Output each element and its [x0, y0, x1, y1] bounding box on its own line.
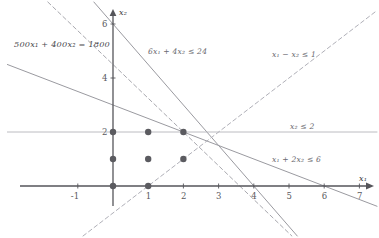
- constraint-label-x1-2x2: x₁ + 2x₂ ≤ 6: [272, 155, 321, 164]
- constraint-label-x2-le-2: x₂ ≤ 2: [290, 122, 315, 131]
- lattice-point: [145, 156, 151, 162]
- lattice-point: [180, 156, 186, 162]
- y-tick-label: 2: [102, 127, 108, 137]
- objective-function-label: 500x₁ + 400x₂ = 1800: [14, 39, 110, 49]
- constraint-x1-2x2: [7, 65, 377, 207]
- x-tick-label: 3: [216, 191, 222, 201]
- x-tick-label: 7: [357, 191, 363, 201]
- lattice-point: [110, 183, 116, 189]
- y-axis-arrow-icon: [110, 9, 117, 16]
- x-axis-arrow-icon: [366, 183, 374, 190]
- x-tick-label: 1: [146, 191, 152, 201]
- constraint-6x1-4x2: [94, 2, 297, 236]
- y-tick-label: 6: [102, 19, 108, 29]
- constraint-label-6x1-4x2: 6x₁ + 4x₂ ≤ 24: [148, 47, 207, 56]
- constraint-label-x1-minus-x2: x₁ − x₂ ≤ 1: [272, 50, 316, 59]
- x-tick-label: 5: [287, 191, 293, 201]
- lattice-point: [110, 129, 116, 135]
- plot-canvas: [0, 0, 379, 238]
- y-tick-label: 4: [102, 73, 108, 83]
- lattice-point: [145, 183, 151, 189]
- lattice-point: [110, 156, 116, 162]
- x-axis-name: x₁: [359, 174, 367, 183]
- feasible-region-figure: 500x₁ + 400x₂ = 1800 6x₁ + 4x₂ ≤ 24 x₁ −…: [0, 0, 379, 238]
- x-tick-label: 6: [322, 191, 328, 201]
- y-axis-name: x₂: [119, 8, 127, 17]
- x-tick-label: 2: [181, 191, 187, 201]
- constraint-x1-minus-x2: [83, 11, 377, 237]
- x-tick-label: 4: [251, 191, 257, 201]
- lattice-point: [145, 129, 151, 135]
- x-tick-label: -1: [71, 191, 80, 201]
- lattice-point: [180, 129, 186, 135]
